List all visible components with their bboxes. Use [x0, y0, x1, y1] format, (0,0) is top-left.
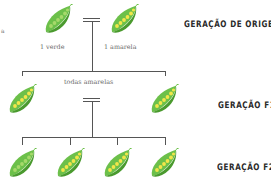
- connector-f2-drop-2: [70, 137, 71, 145]
- connector-f2-horizontal: [22, 137, 165, 138]
- pea-pod-yellow-f1-right: [148, 84, 180, 116]
- caption-green-parent: 1 verde: [40, 43, 64, 51]
- caption-f1: todas amarelas: [64, 78, 113, 86]
- pea-pod-yellow-f2-3: [101, 148, 133, 180]
- pea-pod-yellow-origin: [108, 4, 140, 36]
- connector-f1-vertical: [92, 102, 93, 137]
- connector-f2-drop-3: [117, 137, 118, 145]
- connector-origin-vertical: [92, 22, 93, 71]
- edge-mark: a: [1, 27, 5, 34]
- generation-f2-label: GERAÇÃO F2: [217, 161, 271, 172]
- pea-pod-yellow-f2-4: [148, 148, 180, 180]
- connector-f1-right-drop: [165, 71, 166, 76]
- connector-f2-drop-4: [165, 137, 166, 145]
- generation-origin-label: GERAÇÃO DE ORIGEM: [184, 18, 271, 29]
- connector-f1-left-drop: [22, 71, 23, 76]
- generation-f1-label: GERAÇÃO F1: [218, 99, 271, 110]
- pea-pod-yellow-f2-2: [54, 148, 86, 180]
- pea-pod-green-f2-1: [6, 148, 38, 180]
- pea-pod-yellow-f1-left: [6, 84, 38, 116]
- caption-yellow-parent: 1 amarela: [104, 43, 136, 51]
- pea-pod-green-origin: [42, 4, 74, 36]
- connector-f1-horizontal: [22, 71, 165, 72]
- connector-f2-drop-1: [22, 137, 23, 145]
